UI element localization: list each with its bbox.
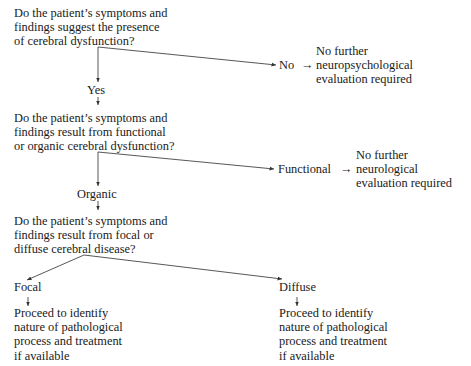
outcome-no-neuro-eval: No further neurological evaluation requi…	[356, 148, 452, 191]
no-outcome-line-2: neuropsychological	[316, 58, 413, 72]
outcome-diffuse-proceed: Proceed to identify nature of pathologic…	[279, 306, 388, 363]
question-focal-or-diffuse: Do the patient’s symptoms and findings r…	[14, 214, 168, 257]
q3-line-3: diffuse cerebral disease?	[14, 242, 168, 256]
functional-outcome-line-3: evaluation required	[356, 176, 452, 190]
functional-outcome-line-1: No further	[356, 148, 452, 162]
flowchart-canvas: Do the patient’s symptoms and findings s…	[0, 0, 471, 366]
focal-outcome-line-3: process and treatment	[14, 334, 123, 348]
q1-line-1: Do the patient’s symptoms and	[14, 6, 168, 20]
focal-outcome-line-4: if available	[14, 349, 123, 363]
focal-outcome-line-2: nature of pathological	[14, 320, 123, 334]
q2-line-3: or organic cerebral dysfunction?	[14, 139, 174, 153]
arrow-right-icon: →	[301, 58, 313, 72]
no-outcome-line-1: No further	[316, 44, 413, 58]
diffuse-label: Diffuse	[279, 280, 316, 294]
functional-outcome-line-2: neurological	[356, 162, 452, 176]
outcome-no-neuropsych-eval: No further neuropsychological evaluation…	[316, 44, 413, 87]
question-cerebral-dysfunction: Do the patient’s symptoms and findings s…	[14, 6, 168, 49]
diffuse-outcome-line-1: Proceed to identify	[279, 306, 388, 320]
q2-line-2: findings result from functional	[14, 125, 174, 139]
outcome-focal-proceed: Proceed to identify nature of pathologic…	[14, 306, 123, 363]
q1-line-3: of cerebral dysfunction?	[14, 34, 168, 48]
focal-outcome-line-1: Proceed to identify	[14, 306, 123, 320]
q1-line-2: findings suggest the presence	[14, 20, 168, 34]
diffuse-outcome-line-4: if available	[279, 349, 388, 363]
no-label: No	[279, 58, 294, 72]
no-outcome-line-3: evaluation required	[316, 72, 413, 86]
diffuse-outcome-line-3: process and treatment	[279, 334, 388, 348]
q2-line-1: Do the patient’s symptoms and	[14, 111, 174, 125]
organic-label: Organic	[77, 187, 117, 201]
q3-line-2: findings result from focal or	[14, 228, 168, 242]
q3-line-1: Do the patient’s symptoms and	[14, 214, 168, 228]
functional-label: Functional	[278, 162, 331, 176]
yes-label: Yes	[87, 83, 105, 97]
diffuse-outcome-line-2: nature of pathological	[279, 320, 388, 334]
focal-label: Focal	[14, 280, 42, 294]
arrow-right-icon: →	[340, 162, 352, 176]
question-functional-or-organic: Do the patient’s symptoms and findings r…	[14, 111, 174, 154]
